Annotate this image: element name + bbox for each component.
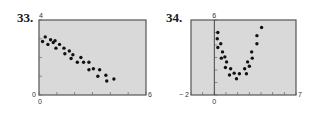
chart-33: 0406 [32,12,152,105]
data-point [44,35,47,38]
data-point [82,60,85,63]
data-point [221,50,224,53]
data-point [216,46,219,49]
data-point [68,49,71,52]
data-point [69,57,72,60]
plot-area [39,20,146,95]
data-point [58,43,61,46]
data-point [219,42,222,45]
x-max-label: 6 [148,91,152,98]
y-max-label: 6 [212,12,216,19]
data-point [104,74,107,77]
data-point [238,72,241,75]
data-point [92,67,95,70]
data-point [251,56,254,59]
data-point [225,60,228,63]
y-min-label: 0 [32,91,36,98]
data-point [112,77,115,80]
data-point [105,79,108,82]
data-point [62,46,65,49]
data-point [235,77,238,80]
data-point [232,71,235,74]
data-point [54,46,57,49]
data-point [223,55,226,58]
data-point [220,56,223,59]
data-point [87,60,90,63]
data-point [255,34,258,37]
data-point [216,31,219,34]
data-point [53,39,56,42]
data-point [229,67,232,70]
plot-area [191,20,296,95]
data-point [79,56,82,59]
data-point [87,68,90,71]
data-point [224,66,227,69]
data-point [41,40,44,43]
chart-34: 6− 207 [179,12,302,105]
x-zero-label: 0 [212,98,216,105]
data-point [46,43,49,46]
data-point [228,73,231,76]
data-point [243,67,246,70]
x-min-label: 0 [38,98,42,105]
data-point [98,68,101,71]
data-point [49,38,52,41]
data-point [246,60,249,63]
data-point [96,75,99,78]
data-point [63,52,66,55]
data-point [245,72,248,75]
data-point [71,53,74,56]
y-max-label: 4 [39,12,43,19]
data-point [260,26,263,29]
data-point [76,60,79,63]
x-min-label: − 2 [179,91,189,98]
x-max-label: 7 [298,91,302,98]
data-point [255,42,258,45]
data-point [248,65,251,68]
data-point [250,50,253,53]
data-point [216,37,219,40]
scatter-plots: 04066− 207 [0,0,318,114]
